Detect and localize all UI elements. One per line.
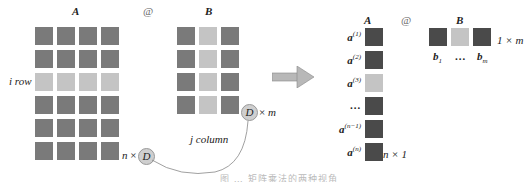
matrix-a-row-cell [365, 120, 383, 138]
matrix-b-col-cell [429, 28, 447, 46]
transform-arrow-icon [272, 66, 316, 88]
a-row-label: … [333, 99, 361, 111]
matrix-a-row-cell [365, 74, 383, 92]
matrix-b-col-cell [473, 28, 491, 46]
right-matrix-a-label: A [364, 14, 371, 26]
a-row-label: a(1) [333, 30, 361, 43]
b-col-label: … [455, 50, 466, 62]
b-col-label: b1 [433, 50, 442, 65]
matrix-a-row-cell [365, 97, 383, 115]
a-row-label: a(n−1) [333, 122, 361, 135]
matrix-a-row-cell [365, 143, 383, 161]
matrix-b-col-cell [451, 28, 469, 46]
right-b-shape: 1 × m [497, 34, 523, 46]
a-row-label: a(2) [333, 53, 361, 66]
matrix-a-row-cell [365, 28, 383, 46]
right-a-shape: n × 1 [383, 148, 407, 160]
right-matrix-b-label: B [456, 14, 463, 26]
b-col-label: bm [477, 50, 488, 65]
a-row-label: a(n) [333, 145, 361, 158]
right-at-operator: @ [401, 14, 411, 26]
figure-caption: 图 … 矩阵乘法的两种视角 [220, 172, 338, 182]
matrix-a-row-cell [365, 51, 383, 69]
a-row-label: a(3) [333, 76, 361, 89]
